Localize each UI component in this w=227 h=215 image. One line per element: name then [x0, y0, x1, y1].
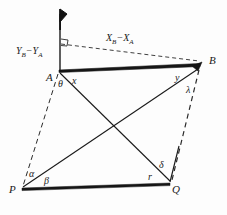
angle-label-gamma: r [148, 172, 152, 182]
angle-label-alpha: α [29, 169, 34, 179]
delta-x-label: XB−XA [106, 33, 134, 46]
angle-label-y: y [175, 73, 179, 83]
solid-line-b-p [23, 69, 198, 187]
delta-x-sub-a: A [129, 38, 133, 46]
solid-line-a-q [60, 73, 170, 181]
dashed-line-delta-x [61, 44, 199, 61]
delta-x-minus: −X [116, 32, 129, 43]
solid-line-q-upper [170, 146, 179, 182]
angle-label-delta: δ [159, 160, 164, 170]
delta-y-label: YB−YA [16, 46, 42, 59]
angle-label-lambda: λ [186, 85, 190, 95]
north-arrow-stem [59, 9, 61, 30]
vertex-label-q: Q [172, 184, 180, 195]
vertex-label-b: B [209, 55, 216, 66]
angle-label-beta: β [44, 176, 49, 186]
angle-label-x: x [72, 76, 76, 86]
surveying-diagram-figure: A B P Q XB−XA YB−YA θ x y λ α β r δ [0, 0, 227, 215]
vertex-label-a: A [46, 72, 53, 83]
right-angle-marker-icon [61, 39, 68, 46]
north-arrow-icon [60, 9, 67, 22]
delta-y-minus: −Y [26, 45, 38, 56]
delta-y-sub-a: A [38, 51, 42, 59]
vertex-label-p: P [9, 184, 16, 195]
angle-label-theta: θ [58, 79, 63, 89]
